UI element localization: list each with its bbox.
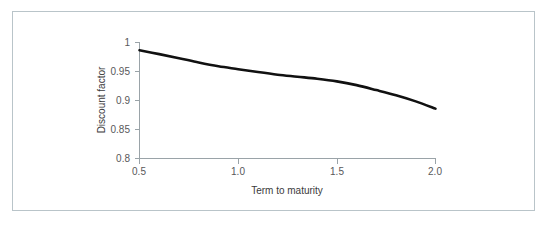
x-tick-label-2.0: 2.0 xyxy=(428,166,442,177)
discount-factor-curve xyxy=(140,50,436,108)
figure-root: 1 0.95 0.9 0.85 0.8 0.5 1.0 1.5 2.0 Disc… xyxy=(0,0,553,232)
x-tick-labels: 0.5 1.0 1.5 2.0 xyxy=(132,166,442,177)
x-axis-title: Term to maturity xyxy=(251,185,323,196)
y-tick-label-0.8: 0.8 xyxy=(116,153,130,164)
plot-area: 1 0.95 0.9 0.85 0.8 0.5 1.0 1.5 2.0 Disc… xyxy=(0,0,553,232)
x-tick-label-1.5: 1.5 xyxy=(330,166,344,177)
y-tick-label-0.85: 0.85 xyxy=(111,124,131,135)
x-tick-label-1.0: 1.0 xyxy=(231,166,245,177)
x-tick-marks xyxy=(140,159,436,164)
y-tick-label-1: 1 xyxy=(124,37,130,48)
y-tick-labels: 1 0.95 0.9 0.85 0.8 xyxy=(111,37,131,164)
discount-factor-line-chart: 1 0.95 0.9 0.85 0.8 0.5 1.0 1.5 2.0 Disc… xyxy=(0,0,553,232)
x-tick-label-0.5: 0.5 xyxy=(132,166,146,177)
y-tick-marks xyxy=(135,43,140,159)
y-tick-label-0.9: 0.9 xyxy=(116,95,130,106)
y-tick-label-0.95: 0.95 xyxy=(111,66,131,77)
y-axis-title: Discount factor xyxy=(96,66,107,133)
